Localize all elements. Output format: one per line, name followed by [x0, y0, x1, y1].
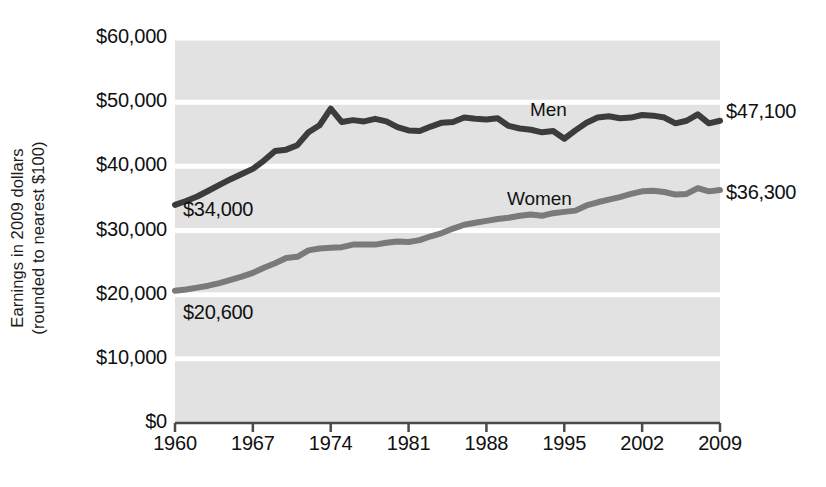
- y-tick-label: $10,000: [17, 346, 167, 369]
- end-value-label-women: $36,300: [726, 181, 796, 204]
- earnings-line-chart: Earnings in 2009 dollars (rounded to nea…: [0, 0, 826, 487]
- y-tick-label: $30,000: [17, 218, 167, 241]
- x-tick-label: 1960: [132, 432, 218, 455]
- x-tick-label: 1988: [443, 432, 529, 455]
- x-tick-label: 2002: [599, 432, 685, 455]
- y-axis-tick-labels: $60,000$50,000$40,000$30,000$20,000$10,0…: [14, 0, 167, 487]
- x-tick-label: 1995: [521, 432, 607, 455]
- end-value-label-men: $47,100: [726, 100, 796, 123]
- y-tick-label: $0: [17, 410, 167, 433]
- y-tick-label: $40,000: [17, 153, 167, 176]
- series-label-women: Women: [507, 188, 572, 210]
- y-tick-label: $60,000: [17, 25, 167, 48]
- x-tick-label: 2009: [677, 432, 763, 455]
- x-tick-label: 1967: [210, 432, 296, 455]
- x-tick-label: 1981: [366, 432, 452, 455]
- x-tick-label: 1974: [288, 432, 374, 455]
- series-label-men: Men: [530, 99, 567, 121]
- start-value-label-men: $34,000: [183, 198, 253, 221]
- y-tick-label: $20,000: [17, 282, 167, 305]
- start-value-label-women: $20,600: [183, 301, 253, 324]
- y-tick-label: $50,000: [17, 89, 167, 112]
